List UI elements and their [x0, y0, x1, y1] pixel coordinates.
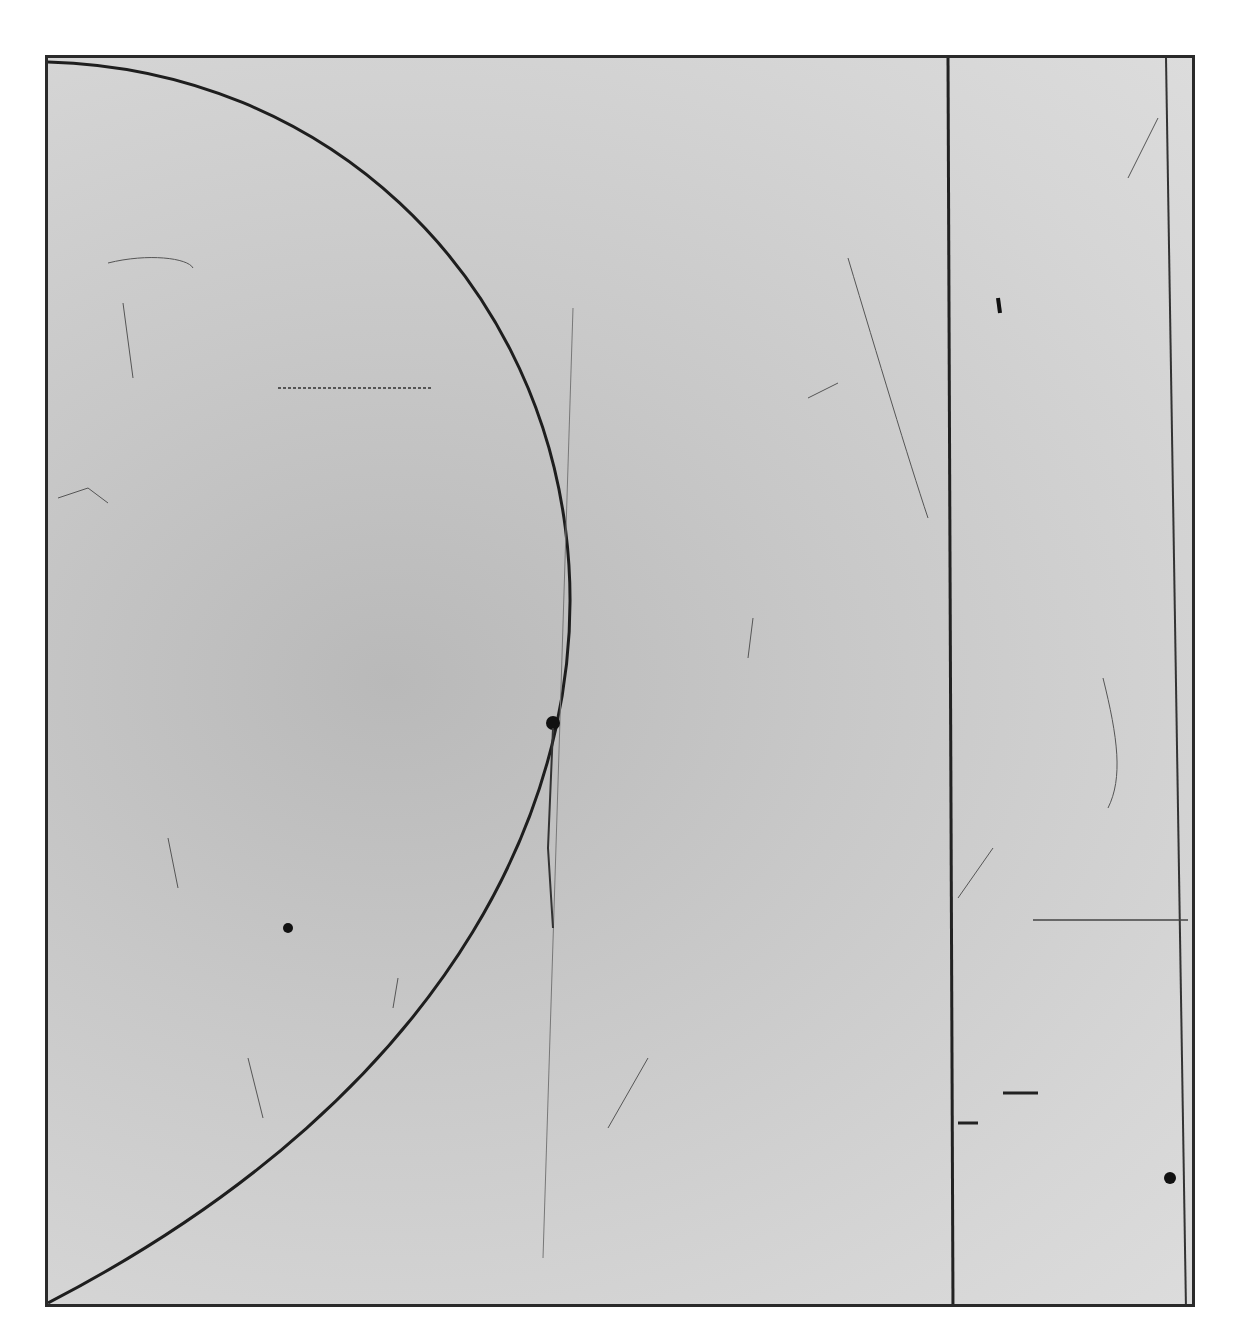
- etching-plate: [45, 55, 1195, 1307]
- etching-drawing: [48, 58, 1192, 1304]
- ink-spot-lower-right: [1164, 1172, 1176, 1184]
- ink-spot-center: [546, 716, 560, 730]
- plate-grain: [48, 58, 1192, 1304]
- short-mark: [998, 298, 1000, 313]
- ink-spot-lower-left: [283, 923, 293, 933]
